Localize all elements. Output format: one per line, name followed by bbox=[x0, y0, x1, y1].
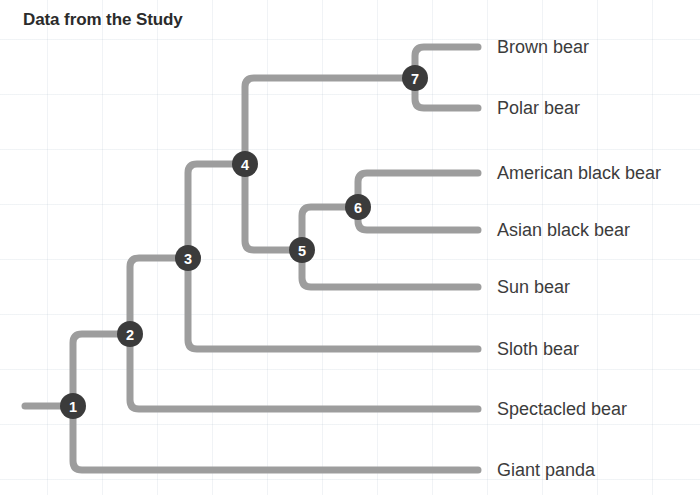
branch-2-to-spectacled-bear bbox=[130, 334, 478, 409]
tree-svg: 1234567 bbox=[0, 0, 700, 495]
branch-6-to-asian-black-bear bbox=[358, 207, 478, 230]
phylogenetic-tree-figure: Data from the Study 1234567 Brown bearPo… bbox=[0, 0, 700, 495]
tip-label-polar-bear: Polar bear bbox=[497, 99, 580, 117]
tree-node-4[interactable]: 4 bbox=[232, 151, 258, 177]
node-number-3: 3 bbox=[184, 251, 192, 267]
node-number-2: 2 bbox=[126, 327, 134, 343]
branch-3-to-4 bbox=[188, 164, 245, 258]
branch-3-to-sloth-bear bbox=[188, 258, 478, 349]
tip-label-american-black-bear: American black bear bbox=[497, 164, 661, 182]
tree-node-6[interactable]: 6 bbox=[345, 194, 371, 220]
branch-5-to-sun-bear bbox=[302, 250, 478, 287]
tip-label-spectacled-bear: Spectacled bear bbox=[497, 400, 627, 418]
branch-1-to-2 bbox=[73, 334, 130, 406]
branch-6-to-american-black-bear bbox=[358, 173, 478, 207]
branch-4-to-5 bbox=[245, 164, 302, 250]
branch-4-to-7 bbox=[245, 78, 415, 164]
tree-node-2[interactable]: 2 bbox=[117, 321, 143, 347]
tree-node-7[interactable]: 7 bbox=[402, 65, 428, 91]
branch-1-to-giant-panda bbox=[73, 406, 478, 470]
branch-2-to-3 bbox=[130, 258, 188, 334]
tip-label-brown-bear: Brown bear bbox=[497, 38, 589, 56]
node-number-5: 5 bbox=[298, 243, 306, 259]
node-number-1: 1 bbox=[69, 399, 77, 415]
tree-node-3[interactable]: 3 bbox=[175, 245, 201, 271]
tree-node-5[interactable]: 5 bbox=[289, 237, 315, 263]
tip-label-giant-panda: Giant panda bbox=[497, 461, 595, 479]
node-number-7: 7 bbox=[411, 71, 419, 87]
tip-label-sloth-bear: Sloth bear bbox=[497, 340, 579, 358]
tree-node-1[interactable]: 1 bbox=[60, 393, 86, 419]
tip-label-sun-bear: Sun bear bbox=[497, 278, 570, 296]
tip-label-asian-black-bear: Asian black bear bbox=[497, 221, 630, 239]
node-number-6: 6 bbox=[354, 200, 362, 216]
node-number-4: 4 bbox=[241, 157, 249, 173]
branch-layer bbox=[25, 47, 478, 470]
